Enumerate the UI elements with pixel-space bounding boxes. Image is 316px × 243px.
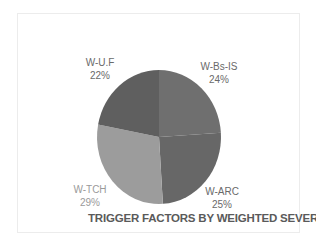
slice-percent: 25% xyxy=(205,198,239,211)
pie-chart xyxy=(0,0,316,243)
slice-name: W-TCH xyxy=(73,183,106,196)
pie-slices xyxy=(97,70,221,204)
slice-label-w-bs-is: W-Bs-IS 24% xyxy=(200,60,237,86)
slice-label-w-u-f: W-U.F 22% xyxy=(86,56,115,82)
slice-percent: 22% xyxy=(86,69,115,82)
slice-label-w-arc: W-ARC 25% xyxy=(205,185,239,211)
chart-title: TRIGGER FACTORS BY WEIGHTED SEVERITY xyxy=(88,212,316,224)
slice-name: W-U.F xyxy=(86,56,115,69)
pie-slice-w-tch xyxy=(97,124,163,204)
slice-percent: 29% xyxy=(73,196,106,209)
slice-name: W-ARC xyxy=(205,185,239,198)
slice-label-w-tch: W-TCH 29% xyxy=(73,183,106,209)
slice-name: W-Bs-IS xyxy=(200,60,237,73)
slice-percent: 24% xyxy=(200,73,237,86)
